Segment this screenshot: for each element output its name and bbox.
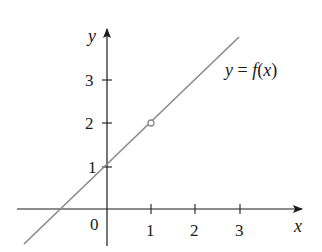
y-tick-label-2: 2	[85, 114, 94, 133]
y-tick-label-1: 1	[88, 158, 97, 177]
open-circle-hole	[148, 120, 154, 126]
curve-label: y = f(x)	[223, 60, 277, 81]
x-tick-label-1: 1	[146, 221, 155, 240]
x-tick-label-2: 2	[190, 221, 199, 240]
curve-label-arg: (x)	[257, 60, 277, 81]
y-tick-label-3: 3	[85, 71, 94, 90]
y-axis-label: y	[86, 26, 96, 46]
graph-canvas: 1 2 3 1 2 3 0 x y y = f(x)	[0, 0, 322, 252]
function-curve	[24, 37, 239, 244]
x-tick-label-3: 3	[235, 221, 244, 240]
curve-label-y: y	[223, 60, 233, 80]
origin-label: 0	[90, 215, 99, 234]
function-graph: 1 2 3 1 2 3 0 x y y = f(x)	[0, 0, 322, 252]
curve-label-eq: =	[233, 60, 252, 80]
x-axis-label: x	[293, 216, 302, 236]
